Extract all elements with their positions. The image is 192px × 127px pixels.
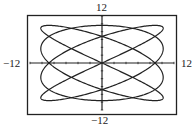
plot-area — [0, 0, 192, 127]
